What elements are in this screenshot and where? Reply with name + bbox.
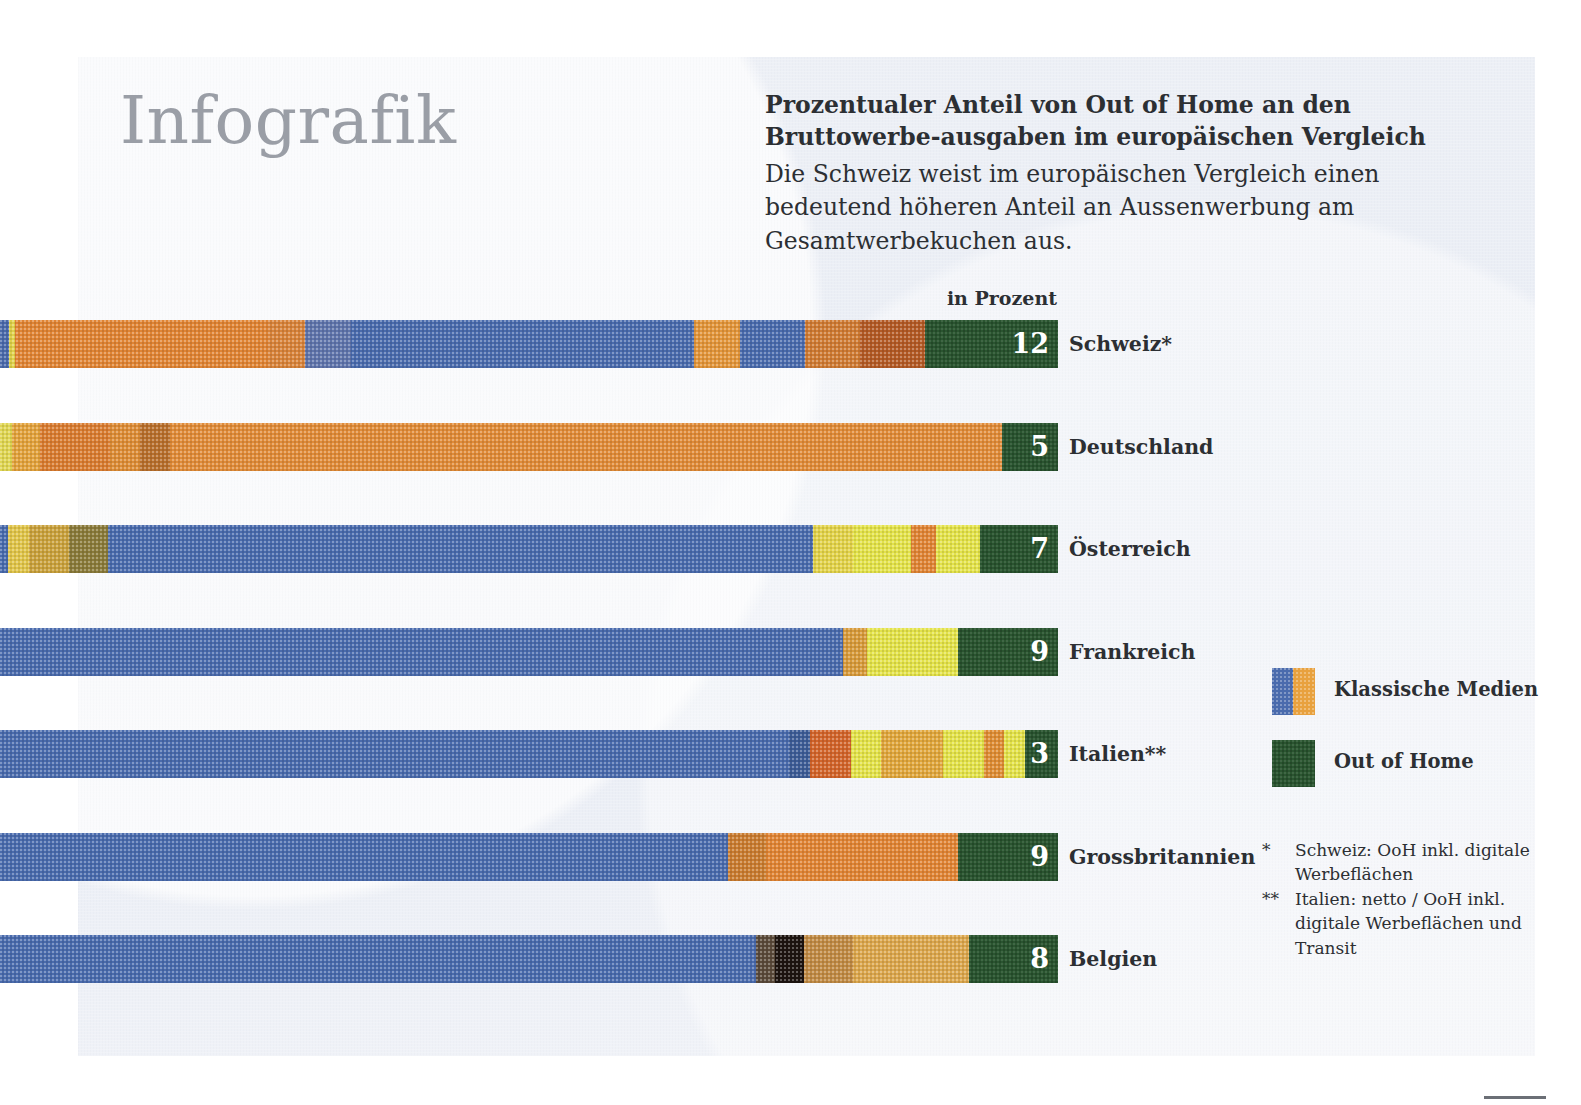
bar-value: 9 bbox=[1030, 628, 1049, 676]
bar-segment-out-of-home: 9 bbox=[958, 628, 1058, 676]
footnote-text: Italien: netto / OoH inkl. digitale Werb… bbox=[1295, 889, 1522, 957]
bar-segment-out-of-home: 7 bbox=[980, 525, 1058, 573]
bar-segment-out-of-home: 9 bbox=[958, 833, 1058, 881]
bar-value: 7 bbox=[1030, 525, 1049, 573]
bar-segment-klassische-medien bbox=[0, 423, 1002, 471]
bar-segment-klassische-medien bbox=[0, 628, 958, 676]
legend-label: Out of Home bbox=[1334, 750, 1474, 773]
bar-row-label: Belgien bbox=[1069, 935, 1157, 983]
bar-row-label: Deutschland bbox=[1069, 423, 1213, 471]
bar-value: 9 bbox=[1030, 833, 1049, 881]
bar: 8 bbox=[0, 935, 1058, 983]
bar-segment-klassische-medien bbox=[0, 833, 958, 881]
bar-segment-out-of-home: 12 bbox=[925, 320, 1058, 368]
bar-value: 3 bbox=[1030, 730, 1049, 778]
footnote-text: Schweiz: OoH inkl. digitale Werbeflächen bbox=[1295, 840, 1530, 884]
footnote-marker: ** bbox=[1262, 887, 1292, 911]
footnotes: *Schweiz: OoH inkl. digitale Werbefläche… bbox=[1262, 838, 1532, 961]
bar-segment-klassische-medien bbox=[0, 525, 980, 573]
bar-segment-klassische-medien bbox=[0, 935, 969, 983]
bar-value: 12 bbox=[1011, 320, 1049, 368]
bar-row-label: Italien** bbox=[1069, 730, 1166, 778]
bar-segment-out-of-home: 3 bbox=[1025, 730, 1058, 778]
bar-row-label: Frankreich bbox=[1069, 628, 1195, 676]
bar: 9 bbox=[0, 833, 1058, 881]
bar-row-label: Grossbritannien bbox=[1069, 833, 1255, 881]
bar-row-label: Schweiz* bbox=[1069, 320, 1172, 368]
bar-row-label: Österreich bbox=[1069, 525, 1191, 573]
legend-swatch-out-of-home bbox=[1272, 740, 1315, 787]
bar-segment-out-of-home: 5 bbox=[1002, 423, 1058, 471]
bar-segment-klassische-medien bbox=[0, 320, 925, 368]
bar: 9 bbox=[0, 628, 1058, 676]
legend-swatch-klassische-medien bbox=[1272, 668, 1315, 715]
bar: 3 bbox=[0, 730, 1058, 778]
bar: 5 bbox=[0, 423, 1058, 471]
footnote-marker: * bbox=[1262, 838, 1292, 862]
bar-segment-out-of-home: 8 bbox=[969, 935, 1058, 983]
footnote: **Italien: netto / OoH inkl. digitale We… bbox=[1262, 887, 1532, 959]
bar-value: 8 bbox=[1030, 935, 1049, 983]
footnote: *Schweiz: OoH inkl. digitale Werbefläche… bbox=[1262, 838, 1532, 886]
bar: 7 bbox=[0, 525, 1058, 573]
bar: 12 bbox=[0, 320, 1058, 368]
bar-segment-klassische-medien bbox=[0, 730, 1025, 778]
bar-value: 5 bbox=[1030, 423, 1049, 471]
corner-rule bbox=[1484, 1096, 1546, 1099]
legend-label: Klassische Medien bbox=[1334, 678, 1538, 701]
